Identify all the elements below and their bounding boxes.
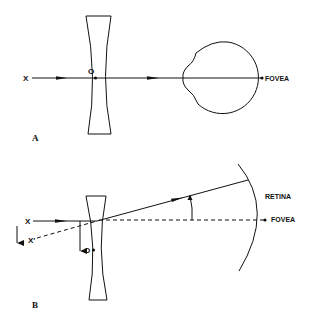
fovea-dot-a bbox=[260, 76, 263, 79]
panel-b: X X′ O RETINA FOVEA B bbox=[17, 164, 295, 310]
ray-arrowhead-icon bbox=[147, 76, 159, 79]
optics-diagram: X O FOVEA A X X′ O RE bbox=[0, 0, 317, 319]
panel-a: X O FOVEA A bbox=[23, 16, 289, 143]
optical-center-dot bbox=[94, 76, 97, 79]
ray-arrowhead-icon bbox=[55, 219, 67, 222]
fovea-label-b: FOVEA bbox=[271, 216, 295, 223]
apparent-ray-dashed bbox=[37, 221, 97, 238]
optical-center-label-a: O bbox=[88, 67, 94, 76]
optical-center-dot-b bbox=[92, 248, 95, 251]
panel-label-a: A bbox=[32, 133, 39, 143]
object-label-b: X bbox=[25, 217, 31, 226]
panel-label-b: B bbox=[32, 300, 38, 310]
fovea-label-a: FOVEA bbox=[265, 75, 289, 82]
optical-center-label-b: O bbox=[84, 246, 90, 255]
fovea-dot-b bbox=[263, 218, 266, 221]
object-label-a: X bbox=[23, 74, 29, 83]
ray-arrowhead-icon bbox=[171, 197, 183, 202]
displaced-object-label: X′ bbox=[28, 236, 35, 245]
retina-label: RETINA bbox=[265, 193, 291, 200]
ray-arrowhead-icon bbox=[56, 76, 67, 79]
